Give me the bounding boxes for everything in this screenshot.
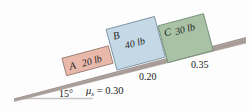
block-a[interactable]: A 20 lb [62,46,113,76]
mu-equals: = [94,85,105,96]
friction-value-a: 0.30 [105,85,123,96]
inclined-plane-figure: A 20 lb B 40 lb C 30 lb 15° μs = 0.30 0.… [0,0,249,112]
figure-canvas: A 20 lb B 40 lb C 30 lb 15° μs = 0.30 0.… [0,0,249,112]
incline-angle-label: 15° [59,88,73,99]
friction-value-c: 0.35 [191,59,209,70]
block-c[interactable]: C 30 lb [158,14,213,63]
friction-label-a: μs = 0.30 [85,85,124,98]
friction-value-b: 0.20 [139,71,157,82]
svg-text:μs = 0.30: μs = 0.30 [85,85,124,98]
